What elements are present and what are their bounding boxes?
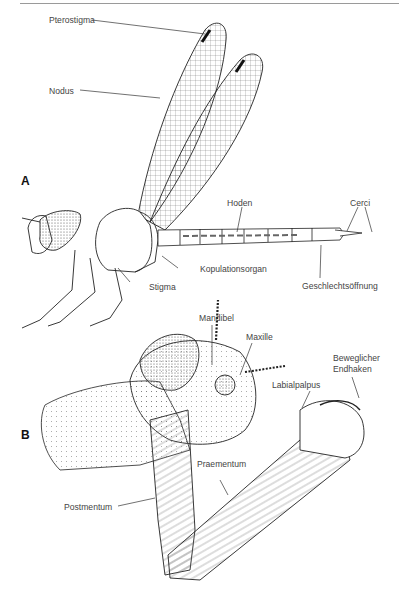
abdomen xyxy=(158,228,362,246)
panel-label-b: B xyxy=(21,428,30,442)
label-cerci: Cerci xyxy=(350,198,370,208)
label-geschlechtsoeffnung: Geschlechtsöffnung xyxy=(302,281,378,291)
label-mandibel: Mandibel xyxy=(199,313,234,323)
label-pterostigma: Pterostigma xyxy=(49,15,95,25)
label-endhaken: Endhaken xyxy=(333,364,372,374)
label-beweglicher: Beweglicher xyxy=(333,353,380,363)
labial-palp-hook xyxy=(300,401,364,458)
label-labialpalpus: Labialpalpus xyxy=(272,380,320,390)
head xyxy=(22,211,81,254)
label-praementum: Praementum xyxy=(197,459,246,469)
label-stigma: Stigma xyxy=(149,282,176,292)
label-postmentum: Postmentum xyxy=(64,502,112,512)
label-nodus: Nodus xyxy=(49,86,74,96)
label-maxille: Maxille xyxy=(246,332,273,342)
label-hoden: Hoden xyxy=(227,198,252,208)
label-kopulationsorgan: Kopulationsorgan xyxy=(200,264,267,274)
panel-label-a: A xyxy=(21,174,30,188)
praementum-shape xyxy=(168,440,350,580)
